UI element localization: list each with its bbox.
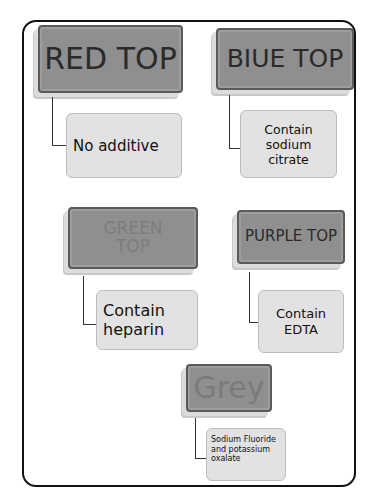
- red-top-connector: [52, 97, 67, 146]
- grey-top-note: Sodium Fluoride and potassium oxalate: [206, 428, 286, 481]
- green-top-label: GREEN TOP: [92, 220, 174, 256]
- green-top-box: GREEN TOP: [68, 207, 198, 269]
- green-top-note: Contain heparin: [96, 290, 198, 350]
- grey-top-note-text: Sodium Fluoride and potassium oxalate: [211, 435, 281, 464]
- grey-top-connector: [195, 418, 206, 459]
- red-top-note-text: No additive: [73, 137, 159, 155]
- green-top-connector: [83, 276, 97, 325]
- purple-top-label: PURPLE TOP: [245, 229, 337, 245]
- green-top-note-text: Contain heparin: [103, 301, 197, 339]
- purple-top-note-text: Contain EDTA: [271, 306, 331, 337]
- red-top-note: No additive: [66, 113, 182, 178]
- red-top-label: RED TOP: [44, 43, 176, 75]
- blue-top-label: BIUE TOP: [227, 46, 344, 72]
- purple-top-note: Contain EDTA: [258, 290, 344, 353]
- blue-top-note: Contain sodium citrate: [240, 110, 337, 178]
- blue-top-box: BIUE TOP: [216, 28, 354, 90]
- blue-top-note-text: Contain sodium citrate: [247, 122, 330, 167]
- purple-top-box: PURPLE TOP: [237, 210, 345, 264]
- grey-top-label: Grey: [193, 372, 264, 404]
- grey-top-box: Grey: [186, 364, 272, 412]
- red-top-box: RED TOP: [38, 25, 183, 93]
